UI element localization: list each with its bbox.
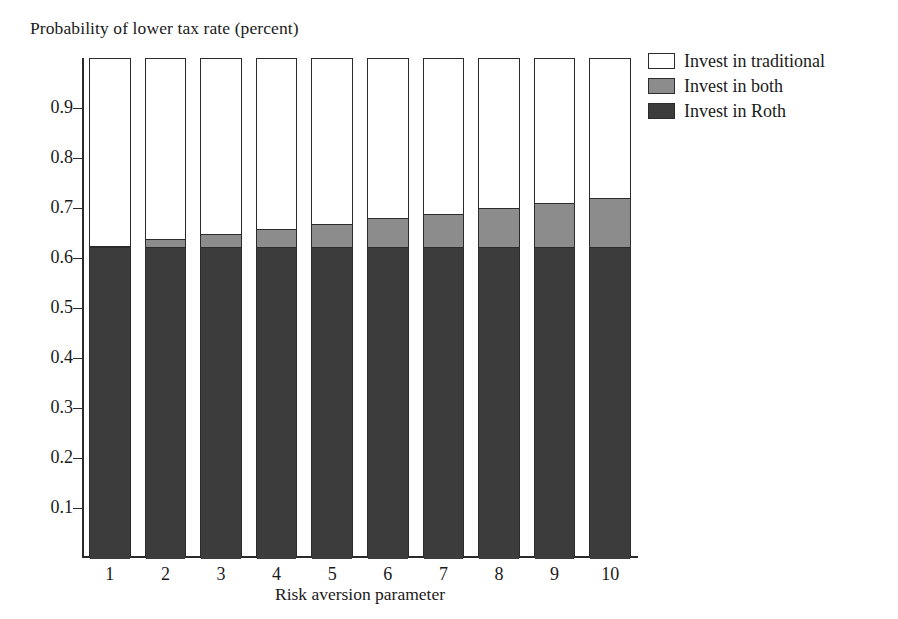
bar-segment-roth [257,248,296,559]
bar-column[interactable] [200,58,241,558]
bar-segment-both [368,218,407,248]
legend-item-label: Invest in traditional [684,52,825,70]
bar-segment-both [257,229,296,249]
legend-item[interactable]: Invest in Roth [648,102,825,120]
y-axis-tick [73,358,82,359]
y-axis-tick [73,258,82,259]
stacked-bar-chart: Probability of lower tax rate (percent) … [0,0,898,619]
legend-item-label: Invest in Roth [684,102,786,120]
legend-item[interactable]: Invest in traditional [648,52,825,70]
y-axis-line [82,58,84,558]
bar-column[interactable] [367,58,408,558]
bar-segment-both [312,224,351,249]
x-axis-tick-label: 4 [272,564,281,585]
y-axis-tick-label: 0.3 [51,397,74,418]
x-axis-tick-label: 3 [217,564,226,585]
x-axis-tick-label: 2 [161,564,170,585]
x-axis-tick-label: 6 [383,564,392,585]
y-axis-tick-label: 0.5 [51,297,74,318]
y-axis-tick-label: 0.8 [51,147,74,168]
bar-segment-roth [535,248,574,559]
bar-segment-both [535,203,574,249]
bar-column[interactable] [423,58,464,558]
plot-area: 0.10.20.30.40.50.60.70.80.9 12345678910 [82,58,638,558]
legend-swatch-icon [648,53,675,69]
y-axis-tick-label: 0.9 [51,97,74,118]
bar-segment-both [590,198,629,249]
x-axis-tick-label: 5 [328,564,337,585]
x-axis-tick-label: 10 [601,564,619,585]
bar-column[interactable] [589,58,630,558]
bar-segment-both [146,239,185,249]
legend-item[interactable]: Invest in both [648,77,825,95]
bar-segment-roth [424,248,463,559]
legend-swatch-icon [648,78,675,94]
bar-segment-roth [201,248,240,559]
y-axis-tick-label: 0.1 [51,497,74,518]
y-axis-tick [73,208,82,209]
legend-item-label: Invest in both [684,77,783,95]
y-axis-title: Probability of lower tax rate (percent) [30,18,299,39]
x-axis-tick-label: 9 [550,564,559,585]
y-axis-tick-label: 0.6 [51,247,74,268]
x-axis-tick-label: 7 [439,564,448,585]
x-axis-title: Risk aversion parameter [82,584,638,605]
bar-segment-both [479,208,518,248]
legend: Invest in traditionalInvest in bothInves… [648,52,825,120]
bar-column[interactable] [256,58,297,558]
y-axis-tick [73,408,82,409]
y-axis-tick-label: 0.7 [51,197,74,218]
bar-segment-roth [90,248,129,559]
bar-segment-roth [368,248,407,559]
y-axis-tick-label: 0.4 [51,347,74,368]
y-axis-tick [73,458,82,459]
y-axis-tick-label: 0.2 [51,447,74,468]
y-axis-tick [73,108,82,109]
x-axis-tick-label: 1 [105,564,114,585]
bar-segment-both [201,234,240,249]
legend-swatch-icon [648,103,675,119]
bar-segment-roth [146,248,185,559]
bar-column[interactable] [145,58,186,558]
bar-column[interactable] [311,58,352,558]
bar-column[interactable] [478,58,519,558]
y-axis-tick [73,158,82,159]
y-axis-tick [73,308,82,309]
bar-segment-roth [590,248,629,559]
bar-segment-both [424,214,463,249]
bar-segment-roth [479,248,518,559]
bar-column[interactable] [534,58,575,558]
x-axis-tick-label: 8 [495,564,504,585]
y-axis-tick [73,508,82,509]
bar-segment-roth [312,248,351,559]
bar-column[interactable] [89,58,130,558]
